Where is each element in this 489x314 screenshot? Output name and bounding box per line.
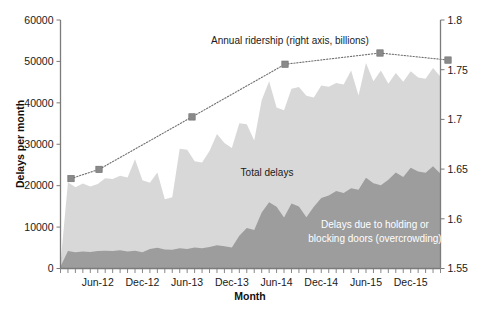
y-tick-label: 40000 (24, 97, 53, 109)
y-tick-label: 20000 (24, 179, 53, 191)
chart-container: 0100002000030000400005000060000 1.551.61… (0, 0, 489, 314)
ridership-marker (282, 61, 288, 67)
ridership-marker (68, 175, 74, 181)
total-delays-annotation: Total delays (241, 167, 294, 178)
y2-tick-label: 1.7 (448, 113, 463, 125)
x-tick-label: Dec-15 (394, 276, 428, 288)
ridership-annotation: Annual ridership (right axis, billions) (211, 35, 369, 46)
x-tick-label: Jun-15 (350, 276, 382, 288)
x-tick-label: Dec-14 (304, 276, 338, 288)
x-tick-label: Jun-13 (171, 276, 203, 288)
y2-tick-label: 1.6 (448, 213, 463, 225)
x-tick-label: Jun-12 (82, 276, 114, 288)
doors-delays-annotation-line2: blocking doors (overcrowding) (308, 233, 441, 244)
y2-tick-label: 1.65 (448, 163, 469, 175)
doors-delays-annotation-line1: Delays due to holding or (321, 219, 430, 230)
x-tick-label: Dec-13 (215, 276, 249, 288)
ridership-marker (189, 114, 195, 120)
y-tick-label: 50000 (24, 55, 53, 67)
y-tick-label: 30000 (24, 138, 53, 150)
delays-ridership-chart: 0100002000030000400005000060000 1.551.61… (0, 0, 489, 314)
ridership-marker (445, 57, 451, 63)
y2-tick-label: 1.8 (448, 14, 463, 26)
y2-tick-label: 1.75 (448, 64, 469, 76)
x-axis-title: Month (234, 290, 266, 302)
y-axis-title: Delays per month (14, 100, 26, 188)
y-tick-label: 0 (48, 262, 54, 274)
y2-tick-label: 1.55 (448, 262, 469, 274)
x-tick-label: Dec-12 (126, 276, 160, 288)
x-tick-label: Jun-14 (261, 276, 293, 288)
y-tick-label: 10000 (24, 221, 53, 233)
ridership-marker (96, 166, 102, 172)
ridership-marker (377, 50, 383, 56)
y-tick-label: 60000 (24, 14, 53, 26)
